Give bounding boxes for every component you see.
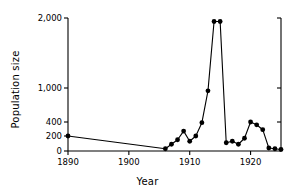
y-axis-tick-marks [64,18,68,151]
x-axis-tick-marks [68,151,251,155]
y-axis-tick-label: 400 [14,117,62,127]
data-point-marker [206,88,211,93]
data-point-marker [273,146,278,151]
data-point-marker [254,122,259,127]
data-point-marker [175,137,180,142]
data-point-marker [193,134,198,139]
y-axis-tick-label: 2,000 [14,13,62,23]
data-point-marker [230,139,235,144]
data-point-marker [236,142,241,147]
y-axis-tick-label: 0 [14,146,62,156]
data-point-marker [279,147,284,152]
data-point-marker [224,140,229,145]
data-point-marker [260,127,265,132]
data-point-marker [218,19,223,24]
y-axis-title: Population size [10,44,21,136]
y-axis-tick-label: 1,000 [14,83,62,93]
x-axis-tick-label: 1910 [170,157,210,167]
data-point-marker [266,146,271,151]
data-point-marker [212,19,217,24]
right-axis-tick-marks [277,18,281,122]
data-point-marker [163,146,168,151]
population-size-chart: 02004001,0002,000 1890190019101920 Popul… [0,0,295,195]
data-point-marker [242,136,247,141]
data-point-markers [66,19,284,152]
data-line-population-size [68,22,281,150]
data-point-marker [187,139,192,144]
data-point-marker [199,120,204,125]
data-point-marker [169,142,174,147]
x-axis-title: Year [0,176,295,187]
x-axis-tick-label: 1920 [231,157,271,167]
data-point-marker [66,134,71,139]
x-axis-tick-label: 1900 [109,157,149,167]
y-axis-tick-label: 200 [14,131,62,141]
data-point-marker [181,129,186,134]
x-axis-tick-label: 1890 [48,157,88,167]
data-point-marker [248,120,253,125]
